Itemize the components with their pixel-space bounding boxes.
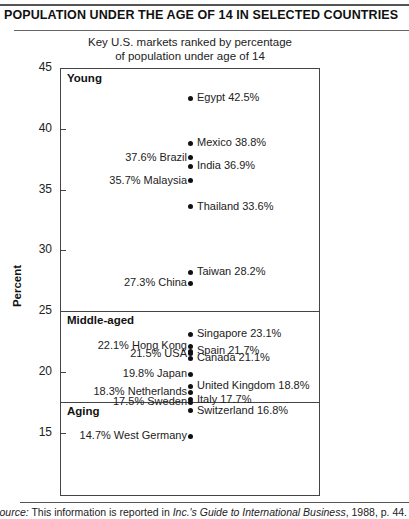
data-label: Singapore 23.1% <box>197 327 281 339</box>
data-label: Switzerland 16.8% <box>197 404 288 416</box>
y-tick-mark <box>60 250 66 251</box>
data-label: 14.7% West Germany <box>80 429 187 441</box>
group-label-middle-aged: Middle-aged <box>67 314 134 326</box>
data-label: 27.3% China <box>124 276 187 288</box>
data-point <box>188 434 193 439</box>
y-tick-label: 30 <box>22 242 52 256</box>
data-point <box>188 400 193 405</box>
y-tick-label: 15 <box>22 425 52 439</box>
data-point <box>188 372 193 377</box>
y-tick-label: 25 <box>22 303 52 317</box>
data-point <box>188 384 193 389</box>
data-point <box>188 356 193 361</box>
source-title: Inc.'s Guide to International Business <box>173 506 346 518</box>
source-prefix: Source: <box>0 506 29 518</box>
bottom-rule <box>20 502 409 503</box>
chart-title: POPULATION UNDER THE AGE OF 14 IN SELECT… <box>4 8 398 22</box>
data-point <box>188 270 193 275</box>
y-tick-label: 40 <box>22 121 52 135</box>
group-label-aging: Aging <box>67 405 100 417</box>
data-point <box>188 332 193 337</box>
chart-subtitle-line-1: Key U.S. markets ranked by percentage <box>60 36 320 48</box>
source-note: Source: This information is reported in … <box>0 506 407 518</box>
data-label: India 36.9% <box>197 159 255 171</box>
data-label: 35.7% Malaysia <box>109 174 187 186</box>
data-point <box>188 96 193 101</box>
y-axis-label: Percent <box>11 265 23 307</box>
data-label: 37.6% Brazil <box>125 151 187 163</box>
y-tick-label: 20 <box>22 364 52 378</box>
chart-subtitle-line-2: of population under age of 14 <box>60 50 320 62</box>
data-label: United Kingdom 18.8% <box>197 379 310 391</box>
data-label: Egypt 42.5% <box>197 91 259 103</box>
data-label: Taiwan 28.2% <box>197 265 266 277</box>
data-label: 21.5% USA <box>130 347 187 359</box>
y-tick-label: 35 <box>22 182 52 196</box>
data-label: Canada 21.1% <box>197 351 270 363</box>
data-label: 19.8% Japan <box>123 367 187 379</box>
data-point <box>188 344 193 349</box>
y-tick-label: 45 <box>22 60 52 74</box>
group-label-young: Young <box>67 72 102 84</box>
title-rule <box>14 30 409 31</box>
source-suffix: , 1988, p. 44. <box>346 506 407 518</box>
y-tick-mark <box>60 372 66 373</box>
data-label: 17.5% Sweden <box>113 395 187 407</box>
data-point <box>188 204 193 209</box>
y-tick-mark <box>60 129 66 130</box>
data-label: Mexico 38.8% <box>197 136 266 148</box>
data-label: Thailand 33.6% <box>197 200 273 212</box>
y-tick-mark <box>60 190 66 191</box>
data-point <box>188 390 193 395</box>
data-point <box>188 281 193 286</box>
data-point <box>188 164 193 169</box>
data-point <box>188 141 193 146</box>
source-text: This information is reported in <box>29 506 173 518</box>
group-separator <box>60 311 320 312</box>
top-rule <box>0 4 409 6</box>
y-tick-mark <box>60 433 66 434</box>
